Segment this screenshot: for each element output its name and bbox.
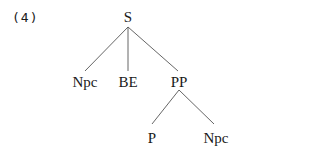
node-p: P [148,130,156,146]
edge-s-npc [85,27,128,71]
edge-s-pp [128,27,178,71]
edge-pp-npc [179,90,214,124]
node-npc-2: Npc [204,130,229,146]
node-npc: Npc [73,74,98,90]
node-s: S [124,9,132,25]
node-pp: PP [171,74,188,90]
node-be: BE [118,74,137,90]
edge-pp-p [152,90,179,124]
